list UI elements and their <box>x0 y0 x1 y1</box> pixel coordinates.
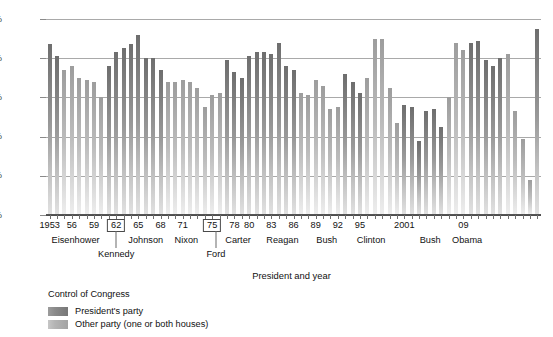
y-tick-label-0: 0% <box>0 211 2 220</box>
x-tick <box>57 215 58 219</box>
president-leader-line-ford <box>215 231 216 248</box>
x-tick <box>94 215 95 219</box>
x-tick <box>353 215 354 219</box>
bar <box>365 78 369 215</box>
president-label-eisenhower-1953: Eisenhower <box>52 236 100 245</box>
x-tick <box>471 215 472 219</box>
legend-title: Control of Congress <box>48 290 208 299</box>
x-tick <box>515 215 516 219</box>
x-tick <box>523 215 524 219</box>
legend-label-other-party: Other party (one or both houses) <box>75 320 208 329</box>
x-tick <box>72 215 73 219</box>
year-label-86: 86 <box>288 221 298 230</box>
x-tick <box>190 215 191 219</box>
x-tick <box>279 215 280 219</box>
bar <box>166 82 170 215</box>
bar <box>476 41 480 215</box>
bar <box>188 82 192 215</box>
x-tick <box>412 215 413 219</box>
bar <box>299 93 303 215</box>
president-label-ford-1975: Ford <box>206 250 225 259</box>
bar <box>336 107 340 215</box>
year-label-95: 95 <box>355 221 365 230</box>
y-tick-label-40: 40% <box>0 132 2 141</box>
bar <box>55 56 59 215</box>
x-axis-title: President and year <box>0 270 553 281</box>
y-tick-dash-60 <box>40 97 46 98</box>
x-tick <box>101 215 102 219</box>
bar <box>314 80 318 215</box>
bar <box>277 43 281 215</box>
bar <box>70 66 74 215</box>
x-tick <box>227 215 228 219</box>
x-tick <box>419 215 420 219</box>
bar <box>48 44 52 215</box>
plot-area <box>46 19 541 215</box>
x-tick <box>242 215 243 219</box>
bar <box>240 78 244 215</box>
cropped-title-strip <box>0 0 553 9</box>
president-label-bush-2001: Bush <box>420 236 441 245</box>
bar <box>269 54 273 215</box>
x-tick <box>308 215 309 219</box>
x-tick <box>316 215 317 219</box>
president-label-clinton-1993: Clinton <box>357 236 386 245</box>
legend-swatch-other-party <box>48 320 68 329</box>
bar <box>343 74 347 215</box>
bar <box>225 60 229 215</box>
year-label-71: 71 <box>178 221 188 230</box>
bar <box>395 123 399 215</box>
bar <box>513 111 517 215</box>
legend-item-other-party: Other party (one or both houses) <box>48 318 208 330</box>
year-label-09: 09 <box>458 221 468 230</box>
bar <box>439 127 443 215</box>
x-tick <box>375 215 376 219</box>
president-label-carter-1977: Carter <box>225 236 251 245</box>
chart-root: 0%20%40%60%80%100% 195356596265687175788… <box>0 0 553 337</box>
bar <box>195 88 199 215</box>
bar <box>92 82 96 215</box>
bar <box>144 58 148 215</box>
x-tick <box>508 215 509 219</box>
x-tick <box>146 215 147 219</box>
president-label-nixon-1969: Nixon <box>175 236 199 245</box>
bar <box>535 29 539 215</box>
x-tick <box>183 215 184 219</box>
bar <box>528 180 532 215</box>
x-tick <box>345 215 346 219</box>
bar <box>402 105 406 215</box>
x-tick <box>426 215 427 219</box>
x-tick <box>382 215 383 219</box>
bar-series <box>46 19 541 215</box>
bar <box>506 54 510 215</box>
year-label-59: 59 <box>89 221 99 230</box>
bar <box>107 66 111 215</box>
year-label-78: 78 <box>229 221 239 230</box>
x-axis-title-text: President and year <box>252 270 331 281</box>
x-tick <box>338 215 339 219</box>
bar <box>358 93 362 215</box>
x-tick <box>87 215 88 219</box>
bar <box>99 97 103 215</box>
y-tick-label-20: 20% <box>0 171 2 180</box>
president-leader-line-kennedy <box>116 231 117 248</box>
x-tick <box>404 215 405 219</box>
bar <box>232 72 236 215</box>
bar <box>484 60 488 215</box>
bar <box>181 80 185 215</box>
x-tick <box>330 215 331 219</box>
year-label-80: 80 <box>244 221 254 230</box>
y-tick-dash-20 <box>40 176 46 177</box>
x-tick <box>537 215 538 219</box>
x-tick <box>294 215 295 219</box>
bar <box>122 48 126 215</box>
bar <box>388 88 392 215</box>
y-tick-label-60: 60% <box>0 93 2 102</box>
year-label-2001: 2001 <box>394 221 414 230</box>
bar <box>85 80 89 215</box>
legend-item-presidents-party: President's party <box>48 305 208 317</box>
year-label-75: 75 <box>203 219 221 232</box>
bar <box>136 35 140 215</box>
y-tick-dash-80 <box>40 58 46 59</box>
bar <box>491 66 495 215</box>
